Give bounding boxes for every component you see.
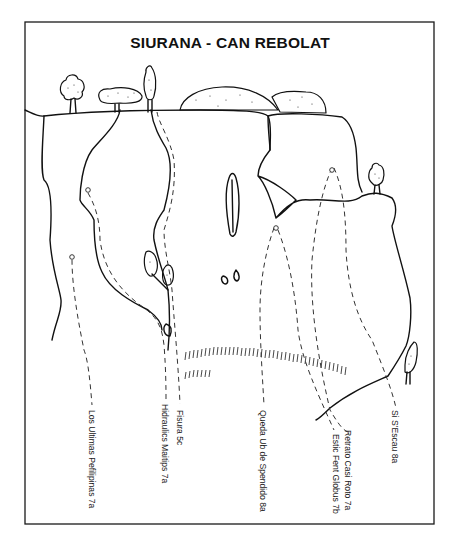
page-title: SIURANA - CAN REBOLAT bbox=[25, 34, 435, 52]
belay-icon bbox=[86, 188, 91, 193]
route-label-retrato: Retrato Casi Roto 7a bbox=[343, 430, 353, 510]
route-label-estic: Estic Fent Globus 7b bbox=[331, 434, 341, 514]
route-label-si-sescau: Si S'Escau 8a bbox=[390, 410, 400, 463]
belay-icon bbox=[274, 226, 279, 231]
route-label-hidraulics: Hidraulics Maitips 7a bbox=[160, 404, 170, 483]
route-label-los-ultimas: Los Ultimas Pefilipinas 7a bbox=[87, 410, 97, 508]
ledge-hatching bbox=[185, 347, 346, 379]
bush-4-icon bbox=[180, 87, 278, 110]
tree-3-icon bbox=[144, 66, 156, 112]
tree-bottom-right-icon bbox=[405, 342, 417, 384]
topo-drawing bbox=[0, 0, 454, 546]
tree-right-icon bbox=[369, 163, 384, 194]
bush-5-icon bbox=[272, 91, 326, 113]
bush-2-icon bbox=[99, 88, 142, 112]
belay-icon bbox=[330, 168, 335, 173]
vegetation-stipple bbox=[67, 79, 411, 364]
rock-outline bbox=[25, 110, 411, 420]
belay-icon bbox=[70, 255, 75, 260]
route-label-fisura: Fisura 5c bbox=[175, 410, 185, 445]
route-label-queda: Queda Ub de Spendido 8a bbox=[258, 410, 268, 512]
tree-1-icon bbox=[60, 75, 84, 113]
route-lines bbox=[70, 112, 396, 432]
